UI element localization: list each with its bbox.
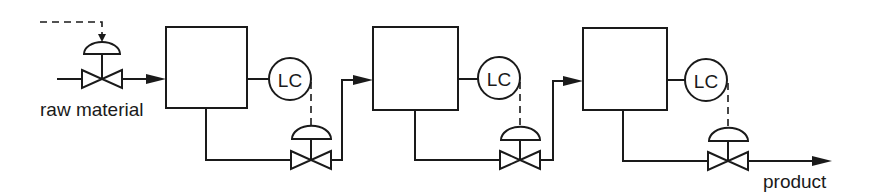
flow-arrow-icon [812,156,832,166]
valve-3 [708,128,748,170]
valve-2 [500,127,540,169]
valve-body-left-icon [708,152,728,170]
actuator-dome-icon [84,42,120,54]
valve-1 [291,126,331,169]
tank-2-inlet-pipe [331,80,360,160]
valve-body-left-icon [291,151,311,169]
diagram-svg: raw material LC LC LC [0,0,875,194]
flow-arrow-icon [146,74,166,84]
valve-body-right-icon [728,152,748,170]
valve-body-left-icon [500,151,520,169]
actuator-dome-icon [501,127,540,140]
lc-1-label: LC [278,70,302,91]
valve-body-right-icon [520,151,540,169]
process-diagram: raw material LC LC LC [0,0,875,194]
tank-1-outlet-pipe [206,108,292,160]
valve-body-left-icon [82,70,102,88]
flow-arrow-icon [353,75,373,85]
level-controller-1: LC [269,58,311,100]
lc-2-label: LC [487,69,511,90]
tank-3 [583,28,667,110]
actuator-dome-icon [292,126,331,139]
lc-3-label: LC [694,71,718,92]
inlet-signal-line [40,22,106,42]
tank-1 [166,27,247,108]
valve-body-right-icon [102,70,122,88]
tank-2 [373,27,458,110]
valve-body-right-icon [311,151,331,169]
level-controller-3: LC [685,59,727,101]
flow-arrow-icon [563,76,583,86]
inlet-valve [82,42,122,88]
tank-3-inlet-pipe [540,81,570,160]
product-label: product [763,171,827,192]
level-controller-2: LC [478,57,520,99]
raw-material-label: raw material [40,99,143,120]
tank-2-outlet-pipe [415,110,500,160]
tank-3-outlet-pipe [623,110,709,161]
actuator-dome-icon [709,128,748,141]
